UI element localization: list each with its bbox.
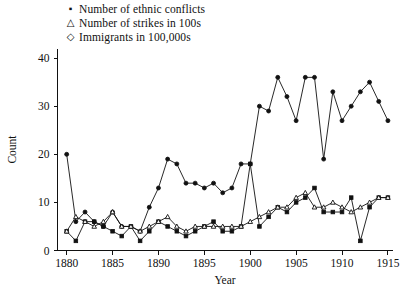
data-point-square xyxy=(322,210,326,214)
data-point-triangle xyxy=(248,219,253,223)
data-point-triangle xyxy=(220,224,225,228)
legend-item-immigrants: ◇ Immigrants in 100,000s xyxy=(64,30,314,44)
x-tick-label: 1880 xyxy=(55,257,78,269)
legend-item-strikes: △ Number of strikes in 100s xyxy=(64,16,314,30)
legend-label-strikes: Number of strikes in 100s xyxy=(77,16,201,30)
data-point-square xyxy=(138,239,142,243)
y-tick-label: 30 xyxy=(38,100,50,112)
y-tick-label: 10 xyxy=(38,196,50,208)
data-point-triangle xyxy=(367,200,372,204)
data-point-square xyxy=(111,229,115,233)
data-point-triangle xyxy=(184,229,189,233)
data-point-circle xyxy=(276,75,280,79)
data-point-square xyxy=(193,229,197,233)
data-point-triangle xyxy=(92,224,97,228)
data-point-triangle xyxy=(294,195,299,199)
data-point-triangle xyxy=(211,224,216,228)
data-point-square xyxy=(147,229,151,233)
data-point-circle xyxy=(377,99,381,103)
data-point-circle xyxy=(166,157,170,161)
data-point-square xyxy=(340,210,344,214)
series-polyline xyxy=(67,164,388,241)
data-point-square xyxy=(285,210,289,214)
data-point-circle xyxy=(221,191,225,195)
data-point-square xyxy=(267,215,271,219)
data-point-circle xyxy=(202,186,206,190)
chart-plot-area: 010203040 188018851890189519001905191019… xyxy=(0,0,407,296)
data-point-square xyxy=(368,205,372,209)
data-point-square xyxy=(92,220,96,224)
data-point-square xyxy=(212,220,216,224)
data-point-circle xyxy=(386,119,390,123)
x-tick-label: 1895 xyxy=(193,257,216,269)
data-point-triangle xyxy=(321,205,326,209)
data-point-triangle xyxy=(349,210,354,214)
data-point-circle xyxy=(358,90,362,94)
data-point-circle xyxy=(74,220,78,224)
legend-label-immigrants: Immigrants in 100,000s xyxy=(77,30,191,44)
data-point-triangle xyxy=(331,200,336,204)
series-ethnic-conflicts xyxy=(65,162,390,243)
data-point-circle xyxy=(312,75,316,79)
data-point-circle xyxy=(156,186,160,190)
data-point-circle xyxy=(285,95,289,99)
x-axis-ticks: 18801885189018951900190519101915 xyxy=(55,251,399,269)
y-tick-label: 0 xyxy=(44,245,50,257)
x-axis-title: Year xyxy=(214,274,235,286)
data-point-circle xyxy=(175,162,179,166)
data-point-circle xyxy=(340,119,344,123)
x-tick-label: 1910 xyxy=(331,257,354,269)
data-point-triangle xyxy=(266,210,271,214)
x-tick-label: 1890 xyxy=(147,257,170,269)
data-point-square xyxy=(331,210,335,214)
data-point-square xyxy=(349,196,353,200)
data-point-circle xyxy=(257,104,261,108)
square-marker-icon: ▪ xyxy=(64,2,77,16)
data-point-circle xyxy=(322,157,326,161)
data-point-triangle xyxy=(230,224,235,228)
data-point-circle xyxy=(230,186,234,190)
data-point-square xyxy=(102,225,106,229)
data-point-square xyxy=(221,229,225,233)
data-point-circle xyxy=(184,181,188,185)
data-point-square xyxy=(175,229,179,233)
x-tick-label: 1915 xyxy=(376,257,399,269)
data-point-triangle xyxy=(193,224,198,228)
chart-series-layer xyxy=(64,75,390,242)
data-point-circle xyxy=(147,205,151,209)
data-point-circle xyxy=(349,104,353,108)
data-point-triangle xyxy=(340,205,345,209)
data-point-square xyxy=(258,225,262,229)
data-point-circle xyxy=(239,162,243,166)
data-point-circle xyxy=(267,109,271,113)
y-tick-label: 40 xyxy=(38,52,50,64)
x-tick-label: 1900 xyxy=(239,257,262,269)
data-point-triangle xyxy=(165,214,170,218)
y-axis-ticks: 010203040 xyxy=(38,52,58,256)
data-point-square xyxy=(359,239,363,243)
diamond-marker-icon: ◇ xyxy=(64,30,77,44)
data-point-triangle xyxy=(358,205,363,209)
chart-legend: ▪ Number of ethnic conflicts △ Number of… xyxy=(64,2,314,44)
data-point-triangle xyxy=(147,224,152,228)
data-point-circle xyxy=(212,181,216,185)
data-point-circle xyxy=(83,210,87,214)
data-point-square xyxy=(184,234,188,238)
chart-figure: ▪ Number of ethnic conflicts △ Number of… xyxy=(0,0,407,296)
data-point-square xyxy=(74,239,78,243)
series-immigrants-upper xyxy=(65,75,390,233)
triangle-marker-icon: △ xyxy=(64,16,77,30)
y-axis-title: Count xyxy=(6,135,18,164)
x-tick-label: 1905 xyxy=(285,257,308,269)
data-point-circle xyxy=(331,90,335,94)
data-point-triangle xyxy=(303,190,308,194)
data-point-circle xyxy=(65,152,69,156)
data-point-square xyxy=(166,225,170,229)
data-point-circle xyxy=(193,181,197,185)
data-point-circle xyxy=(303,75,307,79)
data-point-circle xyxy=(294,119,298,123)
data-point-square xyxy=(230,229,234,233)
x-tick-label: 1885 xyxy=(101,257,124,269)
data-point-circle xyxy=(368,80,372,84)
data-point-square xyxy=(120,234,124,238)
